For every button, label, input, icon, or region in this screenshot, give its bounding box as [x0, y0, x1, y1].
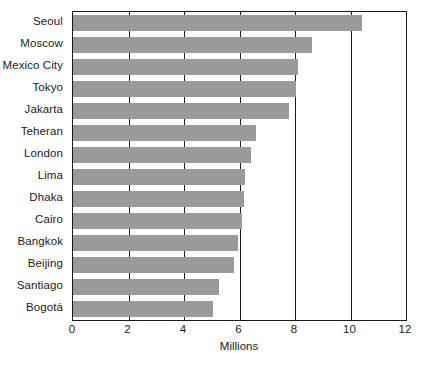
bar-teheran[interactable]	[73, 125, 256, 141]
plot-area	[72, 11, 407, 321]
y-axis-tick-label: Jakarta	[0, 99, 68, 121]
y-axis-tick-label: Santiago	[0, 275, 68, 297]
y-axis-tick-label: Bangkok	[0, 231, 68, 253]
y-axis-tick-label: Dhaka	[0, 187, 68, 209]
y-axis-tick-label: Lima	[0, 165, 68, 187]
x-axis-tick-label: 10	[343, 324, 356, 336]
x-axis-ticks: 024681012	[72, 320, 406, 328]
y-axis-tick-label: Beijing	[0, 253, 68, 275]
bar-slot	[73, 210, 406, 232]
x-axis-tick-label: 8	[291, 324, 297, 336]
x-axis-tick-label: 6	[235, 324, 241, 336]
bar-slot	[73, 254, 406, 276]
y-axis-tick-label: Moscow	[0, 33, 68, 55]
bar-mexico-city[interactable]	[73, 59, 298, 75]
bar-lima[interactable]	[73, 169, 245, 185]
y-axis-tick-label: Tokyo	[0, 77, 68, 99]
y-axis-category-labels: SeoulMoscowMexico CityTokyoJakartaTehera…	[0, 11, 68, 319]
y-axis-tick-label: Mexico City	[0, 55, 68, 77]
bar-seoul[interactable]	[73, 15, 362, 31]
y-axis-tick-label: London	[0, 143, 68, 165]
bar-slot	[73, 122, 406, 144]
bar-bogotá[interactable]	[73, 301, 213, 317]
x-axis-tick-label: 0	[69, 324, 75, 336]
bar-slot	[73, 12, 406, 34]
y-axis-tick-label: Teheran	[0, 121, 68, 143]
bar-chart: SeoulMoscowMexico CityTokyoJakartaTehera…	[0, 0, 431, 367]
x-axis-tick-label: 4	[180, 324, 186, 336]
bar-slot	[73, 144, 406, 166]
bar-slot	[73, 56, 406, 78]
bar-slot	[73, 34, 406, 56]
x-axis-label: Millions	[72, 341, 406, 353]
bar-dhaka[interactable]	[73, 191, 244, 207]
bar-slot	[73, 232, 406, 254]
bar-jakarta[interactable]	[73, 103, 289, 119]
bar-slot	[73, 78, 406, 100]
bar-moscow[interactable]	[73, 37, 312, 53]
bar-slot	[73, 100, 406, 122]
y-axis-tick-label: Cairo	[0, 209, 68, 231]
bar-beijing[interactable]	[73, 257, 234, 273]
bar-slot	[73, 276, 406, 298]
bar-cairo[interactable]	[73, 213, 242, 229]
bar-london[interactable]	[73, 147, 251, 163]
bar-santiago[interactable]	[73, 279, 219, 295]
x-axis-tick-label: 2	[124, 324, 130, 336]
bar-slot	[73, 166, 406, 188]
y-axis-tick-label: Bogotá	[0, 297, 68, 319]
bar-tokyo[interactable]	[73, 81, 296, 97]
bar-slot	[73, 298, 406, 320]
bar-slot	[73, 188, 406, 210]
bar-series	[73, 12, 406, 320]
x-axis-tick-label: 12	[399, 324, 412, 336]
bar-bangkok[interactable]	[73, 235, 238, 251]
y-axis-tick-label: Seoul	[0, 11, 68, 33]
